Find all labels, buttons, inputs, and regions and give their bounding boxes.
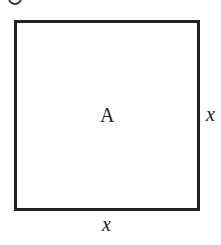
square-area-label: A [100,104,114,126]
figure-number-marker [8,0,22,5]
bottom-side-length-label: x [102,214,111,234]
right-side-length-label: x [206,104,215,124]
